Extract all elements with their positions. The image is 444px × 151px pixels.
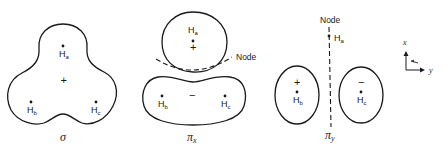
sigma-atom-b-dot	[30, 101, 33, 104]
sigma-orbital: Ha + Hb Hc σ	[8, 24, 117, 144]
pi-x-orbital: Ha + Node Hb − Hc πx	[143, 12, 257, 145]
pi-x-atom-b-dot	[161, 95, 164, 98]
pi-y-orbital: Node Ha + Hb − Hc πy	[275, 15, 383, 143]
pi-y-node-line	[329, 27, 331, 127]
sigma-label: σ	[60, 130, 67, 144]
y-axis-label: y	[428, 66, 433, 75]
sigma-atom-a-label: Ha	[59, 49, 70, 60]
pi-y-node-label: Node	[320, 15, 341, 25]
pi-x-atom-b-label: Hb	[158, 99, 169, 110]
sigma-atom-b-label: Hb	[27, 105, 38, 116]
pi-y-atom-c-dot	[360, 91, 363, 94]
x-axis-label: x	[402, 38, 407, 47]
pi-x-atom-a-label: Ha	[188, 25, 199, 36]
pi-x-atom-c-label: Hc	[221, 99, 231, 110]
y-axis-arrowhead-icon	[420, 68, 425, 73]
sigma-center-sign: +	[61, 74, 67, 86]
x-axis-arrowhead-icon	[404, 51, 409, 56]
pi-x-label: πx	[187, 130, 197, 145]
pi-y-atom-b-label: Hb	[293, 95, 304, 106]
pi-y-left-sign: +	[294, 76, 300, 88]
pi-y-label: πy	[325, 128, 335, 143]
sigma-atom-c-dot	[95, 101, 98, 104]
pi-x-top-sign: +	[190, 41, 196, 53]
pi-y-atom-b-dot	[296, 91, 299, 94]
h3-orbital-diagram: Ha + Hb Hc σ Ha + Node Hb − Hc πx Node H…	[0, 0, 444, 151]
pi-x-bottom-sign: −	[189, 89, 195, 101]
pi-y-atom-c-label: Hc	[357, 95, 367, 106]
pi-y-atom-a-label: Ha	[334, 33, 345, 44]
pi-x-atom-c-dot	[224, 95, 227, 98]
sigma-atom-a-dot	[62, 45, 65, 48]
pi-y-right-sign: −	[358, 76, 364, 88]
pi-y-atom-a-dot	[328, 35, 331, 38]
axes-indicator: x y	[402, 38, 433, 75]
pi-x-node-label: Node	[236, 52, 257, 62]
sigma-atom-c-label: Hc	[91, 105, 101, 116]
